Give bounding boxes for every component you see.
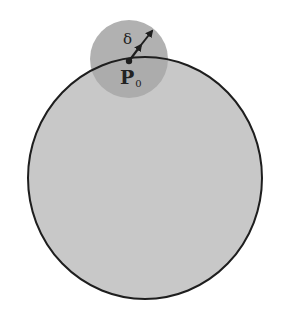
diagram-canvas xyxy=(0,0,281,312)
diagram: δ P0 xyxy=(0,0,281,312)
point-p0-subscript: 0 xyxy=(135,78,141,89)
point-p0-marker xyxy=(126,58,132,64)
delta-label: δ xyxy=(123,30,132,48)
point-p0-label: P0 xyxy=(120,66,142,89)
point-p0-main: P xyxy=(120,66,134,88)
